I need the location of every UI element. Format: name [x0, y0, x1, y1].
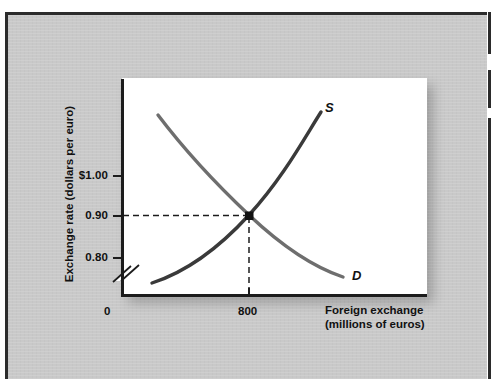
graph-figure: $1.00 0.90 0.80 0 800 Exchange rate (dol…	[0, 0, 491, 379]
axis-break-icon	[113, 265, 139, 282]
x-axis-title: Foreign exchange (millions of euros)	[325, 303, 425, 331]
demand-curve	[158, 115, 343, 277]
y-tick-mark-2	[113, 215, 122, 217]
supply-curve-label: S	[325, 100, 334, 115]
y-axis-line	[121, 79, 124, 296]
y-tick-mark-1	[113, 175, 122, 177]
x-tick-mark-800	[248, 288, 250, 297]
y-tick-mark-3	[113, 257, 122, 259]
y-axis-title: Exchange rate (dollars per euro)	[63, 79, 75, 309]
equilibrium-point-marker	[245, 212, 254, 221]
x-axis-title-line2: (millions of euros)	[325, 317, 425, 331]
figure-root: $1.00 0.90 0.80 0 800 Exchange rate (dol…	[0, 0, 491, 379]
x-tick-label-800: 800	[238, 305, 257, 317]
x-axis-line	[121, 294, 427, 297]
x-axis-title-line1: Foreign exchange	[325, 303, 425, 317]
x-tick-label-0: 0	[104, 305, 110, 317]
demand-curve-label: D	[352, 268, 361, 283]
